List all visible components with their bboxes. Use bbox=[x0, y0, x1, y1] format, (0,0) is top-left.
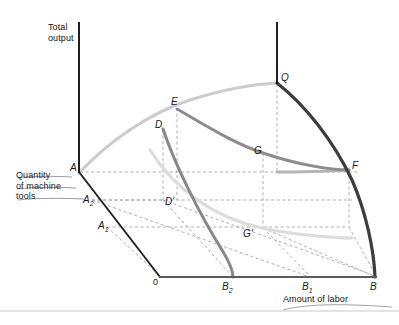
curve-Dprime-Gprime-light bbox=[150, 150, 352, 238]
axis-depth-machine-tools bbox=[79, 172, 160, 277]
origin-label: 0 bbox=[153, 277, 158, 288]
construction-dashed-lines bbox=[80, 84, 376, 277]
point-label-E: E bbox=[171, 96, 178, 108]
handdrawn-underline-amount-of-labor bbox=[283, 305, 392, 310]
point-label-A1: A1 bbox=[98, 220, 109, 234]
axis-label-total-output: Total output bbox=[48, 22, 74, 43]
point-label-Q: Q bbox=[281, 72, 289, 84]
axis-label-amount-of-labor: Amount of labor bbox=[283, 294, 348, 305]
diagram-canvas: Total output Quantity of machine tools A… bbox=[0, 0, 399, 325]
point-label-F: F bbox=[352, 160, 358, 172]
point-label-B1: B1 bbox=[302, 281, 313, 295]
curve-A-E-Q-light bbox=[79, 83, 277, 173]
point-label-G: G bbox=[254, 145, 262, 157]
point-label-A: A bbox=[70, 162, 77, 174]
point-label-G-prime: G' bbox=[243, 228, 253, 240]
point-label-B2: B2 bbox=[222, 281, 233, 295]
dashed-A1-to-origin-floor bbox=[107, 227, 160, 276]
axis-label-machine-tools: Quantity of machine tools bbox=[16, 170, 61, 202]
dashed-Dprime-to-B2 bbox=[163, 200, 232, 276]
diagram-vector-layer bbox=[0, 0, 399, 325]
point-label-D: D bbox=[155, 119, 162, 131]
point-label-D-prime: D' bbox=[165, 196, 174, 208]
point-label-B: B bbox=[370, 281, 377, 293]
point-label-A2: A2 bbox=[83, 194, 94, 208]
